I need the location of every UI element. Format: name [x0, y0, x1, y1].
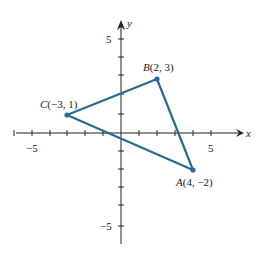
point-b [154, 76, 159, 81]
y-axis [118, 26, 124, 244]
label-point-b: B(2, 3) [143, 61, 174, 74]
x-tick-label-5: 5 [208, 142, 214, 154]
y-tick-label-neg5: −5 [100, 220, 112, 232]
y-axis-label: y [126, 17, 132, 29]
x-axis [14, 130, 240, 136]
label-point-a: A(4, −2) [175, 176, 213, 189]
label-point-c: C(−3, 1) [40, 98, 78, 111]
y-tick-label-5: 5 [106, 33, 112, 45]
point-a [190, 167, 195, 172]
x-axis-label: x [245, 127, 251, 139]
point-c [64, 112, 69, 117]
x-tick-label-neg5: −5 [26, 142, 38, 154]
triangle-abc [67, 79, 193, 170]
coordinate-plane: x −5 5 y 5 −5 A(4, −2) B(2, 3) C(−3, 1) [0, 0, 257, 260]
